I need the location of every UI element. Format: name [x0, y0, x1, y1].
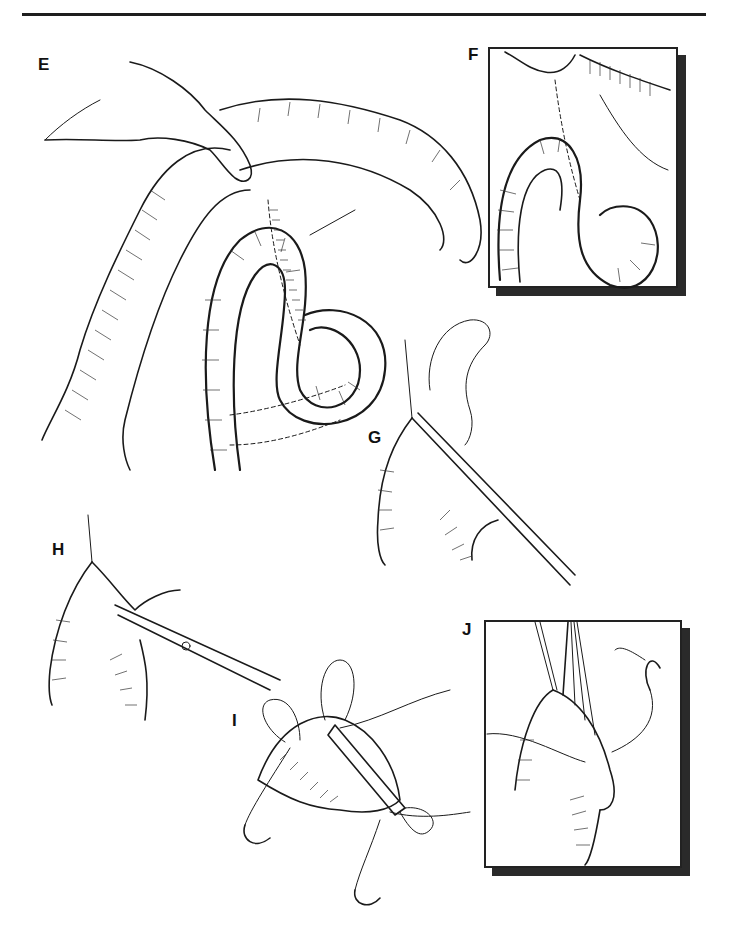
panel-j-illustration: [0, 0, 729, 927]
